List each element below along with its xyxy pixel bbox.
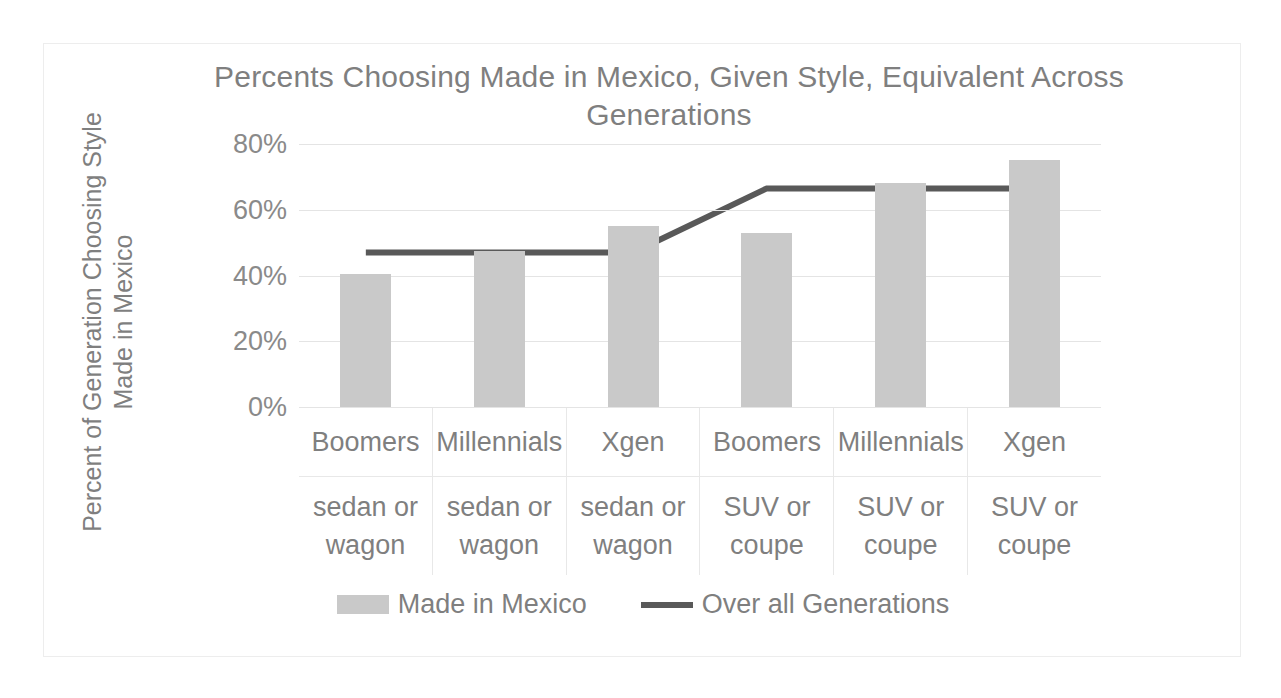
legend-label-made-in-mexico: Made in Mexico [398,589,587,620]
category-generation-label: Boomers [299,408,432,477]
category-style-label: SUV or coupe [700,477,833,575]
category-generation-label: Xgen [968,408,1101,477]
category-style-label: sedan or wagon [567,477,700,575]
gridline: 40% [299,276,1101,277]
y-axis-title: Percent of Generation Choosing Style Mad… [77,112,139,532]
category-generation-label: Millennials [834,408,967,477]
category-style-label: SUV or coupe [834,477,967,575]
category-cell: MillennialsSUV or coupe [834,408,968,575]
category-style-label: sedan or wagon [299,477,432,575]
bar [608,226,659,407]
legend-item-over-all-generations[interactable]: Over all Generations [641,589,950,620]
line-series-path [366,188,1034,252]
category-style-label: sedan or wagon [433,477,566,575]
category-generation-label: Boomers [700,408,833,477]
gridline: 60% [299,210,1101,211]
category-cell: Xgensedan or wagon [567,408,701,575]
bar [1009,160,1060,407]
gridline: 80% [299,144,1101,145]
bar [474,251,525,407]
bar [875,183,926,407]
chart-title: Percents Choosing Made in Mexico, Given … [194,58,1144,134]
legend-item-made-in-mexico[interactable]: Made in Mexico [337,589,587,620]
category-cell: XgenSUV or coupe [968,408,1101,575]
category-generation-label: Millennials [433,408,566,477]
y-axis-tick-label: 40% [233,260,287,291]
bar-swatch-icon [337,595,389,614]
y-axis-tick-label: 80% [233,129,287,160]
bar [340,274,391,407]
plot-area: 80%60%40%20%0% [299,144,1101,407]
gridline: 20% [299,341,1101,342]
category-axis-table: Boomerssedan or wagonMillennialssedan or… [299,407,1101,575]
category-generation-label: Xgen [567,408,700,477]
category-cell: BoomersSUV or coupe [700,408,834,575]
chart-container: Percents Choosing Made in Mexico, Given … [43,43,1241,657]
category-cell: Boomerssedan or wagon [299,408,433,575]
chart-legend: Made in Mexico Over all Generations [44,589,1242,620]
legend-label-over-all-generations: Over all Generations [702,589,950,620]
y-axis-tick-label: 20% [233,326,287,357]
y-axis-tick-label: 60% [233,194,287,225]
line-swatch-icon [641,602,693,608]
y-axis-tick-label: 0% [248,392,287,423]
category-style-label: SUV or coupe [968,477,1101,575]
bar [741,233,792,407]
category-cell: Millennialssedan or wagon [433,408,567,575]
